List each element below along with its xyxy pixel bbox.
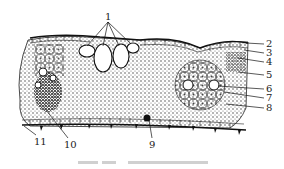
vascular-bundle-left (34, 72, 62, 112)
label-9: 9 (149, 140, 155, 150)
label-4: 4 (266, 57, 272, 67)
stoma (144, 115, 151, 122)
label-8: 8 (266, 103, 272, 113)
label-10: 10 (64, 140, 77, 150)
figure-caption (78, 160, 208, 165)
label-5: 5 (266, 70, 272, 80)
label-1: 1 (105, 12, 111, 22)
leaf-cross-section-figure: 1 2 3 4 5 6 7 8 9 10 11 (0, 0, 284, 169)
label-11: 11 (34, 137, 47, 147)
palisade-left (34, 44, 64, 76)
